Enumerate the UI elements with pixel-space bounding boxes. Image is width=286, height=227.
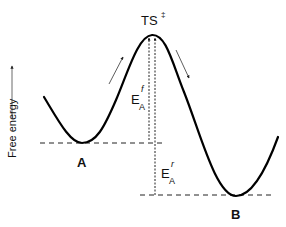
energy-diagram: Free energy TS ‡ E A f E A r A B <box>0 0 286 227</box>
y-axis-label: Free energy <box>6 98 18 158</box>
forward-activation-sub: A <box>139 102 145 112</box>
state-b-label: B <box>231 207 240 222</box>
transition-state-label: TS <box>141 13 158 28</box>
state-a-label: A <box>77 155 87 170</box>
forward-direction-arrow-left <box>109 57 123 84</box>
forward-activation-sup: f <box>141 84 145 94</box>
reverse-activation-sup: r <box>171 159 175 169</box>
reverse-activation-sub: A <box>169 176 175 186</box>
transition-state-superscript: ‡ <box>161 10 165 19</box>
